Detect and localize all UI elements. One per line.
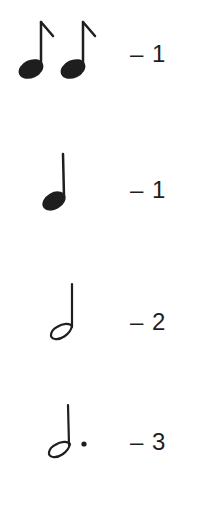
beat-count-label: – 3	[130, 430, 166, 454]
augmentation-dot-icon	[81, 441, 86, 446]
dotted-half-note-icon	[0, 390, 120, 510]
row-eighth-notes: – 1	[0, 0, 199, 120]
eighth-notes-pair-icon	[0, 0, 120, 120]
quarter-note-icon	[0, 130, 120, 250]
row-quarter-note: – 1	[0, 130, 199, 250]
row-half-note: – 2	[0, 260, 199, 380]
beat-count-label: – 1	[130, 178, 166, 202]
row-dotted-half-note: – 3	[0, 390, 199, 510]
beat-count-label: – 1	[130, 42, 166, 66]
half-note-icon	[0, 260, 120, 380]
beat-count-label: – 2	[130, 310, 166, 334]
